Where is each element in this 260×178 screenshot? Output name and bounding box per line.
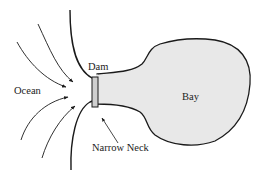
flow-arrow-3: [21, 97, 68, 140]
dam-label: Dam: [88, 62, 108, 73]
bay-shape: [97, 39, 250, 145]
lower-coastline: [71, 100, 95, 170]
narrow-neck-label: Narrow Neck: [92, 143, 149, 154]
flow-arrow-4: [42, 106, 75, 158]
flow-arrow-2: [17, 42, 66, 87]
flow-arrow-1: [38, 24, 73, 82]
ocean-label: Ocean: [14, 86, 41, 97]
narrow-neck-pointer: [102, 118, 118, 143]
dam: [92, 77, 98, 107]
bay-label: Bay: [182, 92, 199, 103]
